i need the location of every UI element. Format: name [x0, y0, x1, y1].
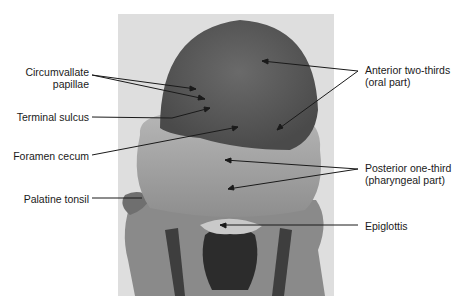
- label-line: Foramen cecum: [4, 150, 89, 162]
- label-line: (pharyngeal part): [365, 174, 451, 186]
- specimen-illustration: [0, 0, 462, 296]
- label-line: Posterior one-third: [365, 162, 451, 174]
- anterior-tongue-shape: [160, 20, 318, 150]
- label-line: papillae: [12, 78, 89, 90]
- label-line: (oral part): [365, 76, 450, 88]
- label-line: Palatine tonsil: [4, 193, 89, 205]
- label-circumvallate-papillae: Circumvallate papillae: [12, 66, 89, 90]
- label-line: Circumvallate: [12, 66, 89, 78]
- laryngeal-inlet: [203, 225, 258, 290]
- label-palatine-tonsil: Palatine tonsil: [4, 193, 89, 205]
- label-foramen-cecum: Foramen cecum: [4, 150, 89, 162]
- label-line: Epiglottis: [365, 220, 408, 232]
- label-epiglottis: Epiglottis: [365, 220, 408, 232]
- label-posterior-one-third: Posterior one-third (pharyngeal part): [365, 162, 451, 186]
- label-line: Terminal sulcus: [4, 111, 89, 123]
- label-terminal-sulcus: Terminal sulcus: [4, 111, 89, 123]
- anatomy-figure: Circumvallate papillae Terminal sulcus F…: [0, 0, 462, 296]
- label-anterior-two-thirds: Anterior two-thirds (oral part): [365, 64, 450, 88]
- label-line: Anterior two-thirds: [365, 64, 450, 76]
